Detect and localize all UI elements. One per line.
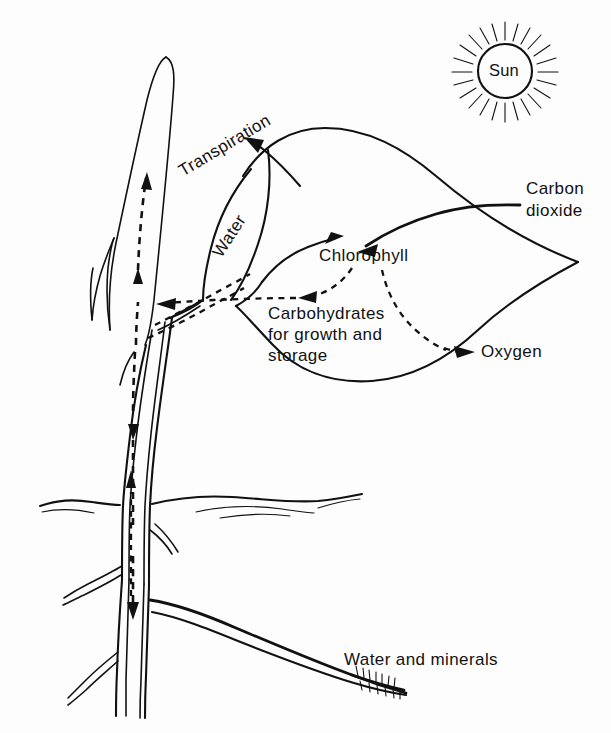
arrowhead-xylem-mid (133, 268, 143, 284)
narrow-upright-leaf (91, 57, 174, 345)
oxygen-label: Oxygen (481, 341, 542, 363)
arrowhead-xylem-top (141, 172, 152, 190)
carbohydrates-label-line3: storage (268, 345, 328, 367)
water-and-minerals-label: Water and minerals (344, 649, 498, 671)
arrowhead-water-to-chlorophyll (325, 232, 344, 244)
photosynthesis-diagram: Sun Transpiration Water Carbon dioxide C… (0, 0, 611, 733)
xylem-up-flow (133, 172, 152, 345)
chlorophyll-label: Chlorophyll (319, 245, 408, 267)
arrowhead-root-uptake (126, 470, 136, 488)
carbohydrates-label-line1: Carbohydrates (268, 303, 385, 325)
ground-line (40, 494, 362, 518)
sun-label: Sun (489, 60, 519, 81)
arrowhead-to-stem (156, 298, 176, 310)
carbohydrates-label-line2: for growth and (268, 324, 382, 346)
carbon-dioxide-label-line1: Carbon (526, 178, 584, 200)
arrowhead-to-carbohydrates (298, 291, 317, 303)
root-system (63, 524, 406, 718)
carbon-dioxide-label-line2: dioxide (526, 200, 583, 222)
